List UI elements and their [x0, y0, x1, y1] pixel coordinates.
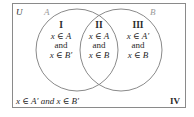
region-ii-line3: x ∈ B — [81, 51, 117, 61]
region-iii-line3: x ∈ B — [120, 51, 156, 61]
region-ii: II x ∈ A and x ∈ B — [81, 21, 117, 60]
region-iv-numeral: IV — [170, 97, 180, 106]
region-iii-numeral: III — [120, 21, 156, 31]
region-i-line3: x ∈ B′ — [43, 51, 79, 61]
universe-label: U — [16, 8, 23, 17]
set-b-label: B — [150, 8, 156, 17]
region-iii: III x ∈ A′ and x ∈ B — [120, 21, 156, 60]
region-i: I x ∈ A and x ∈ B′ — [43, 21, 79, 60]
region-iv-text: x ∈ A′ and x ∈ B′ — [16, 97, 79, 106]
set-a-label: A — [44, 8, 50, 17]
region-ii-numeral: II — [81, 21, 117, 31]
region-i-numeral: I — [43, 21, 79, 31]
